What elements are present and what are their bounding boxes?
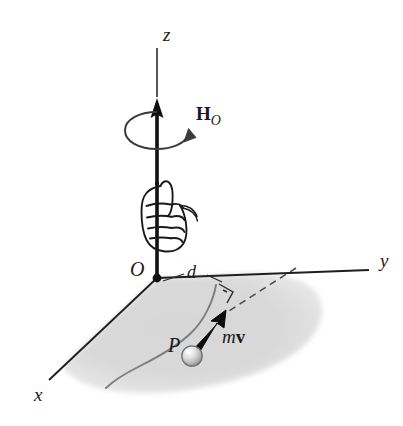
origin-label: O [130, 258, 144, 281]
figure-canvas [0, 0, 403, 426]
momentum-velocity-symbol: v [236, 326, 246, 347]
y-axis-label: y [380, 250, 388, 272]
z-axis [151, 48, 164, 278]
particle-sphere-icon [182, 346, 202, 366]
momentum-vector-label: mv [222, 326, 245, 348]
z-axis-label: z [163, 24, 170, 46]
moment-arm-label: d [187, 262, 196, 283]
angular-momentum-symbol: H [196, 103, 211, 124]
momentum-mass-symbol: m [222, 326, 236, 347]
angular-momentum-label: HO [196, 103, 221, 129]
origin-point [153, 274, 162, 283]
rotation-arrow-icon [125, 112, 196, 149]
angular-momentum-subscript: O [211, 113, 221, 128]
right-hand-grip-icon [142, 181, 198, 251]
particle-label: P [168, 334, 180, 357]
x-axis-label: x [34, 384, 42, 406]
angular-momentum-figure: z y x O P d mv HO [0, 0, 403, 426]
